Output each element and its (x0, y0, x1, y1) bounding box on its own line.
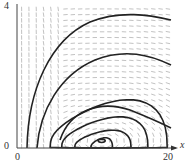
direction-field (22, 7, 171, 149)
x-tick-end: 20 (163, 152, 173, 162)
x-axis-arrow-icon (171, 146, 178, 151)
y-tick-zero: 0 (4, 141, 9, 151)
closed-orbit (62, 117, 148, 148)
open-trajectory (37, 54, 171, 148)
trajectories (27, 15, 171, 148)
y-tick-top: 4 (4, 1, 9, 11)
phase-plot (0, 0, 192, 163)
x-tick-zero: 0 (15, 152, 20, 162)
open-trajectory (27, 15, 171, 148)
x-axis-label: x (180, 140, 184, 150)
